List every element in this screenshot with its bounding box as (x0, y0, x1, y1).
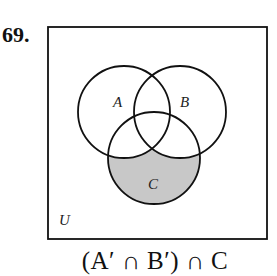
set-expression: (A′ ∩ B′) ∩ C (0, 247, 277, 275)
set-a-label: A (112, 94, 123, 110)
shaded-region (0, 0, 277, 276)
set-c-label: C (148, 176, 159, 192)
set-b-label: B (180, 94, 189, 110)
venn-diagram: A B C U (0, 0, 277, 276)
universe-label: U (59, 212, 71, 228)
